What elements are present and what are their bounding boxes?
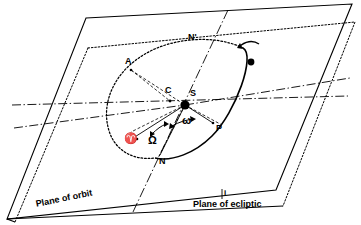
label-vernal-equinox-aries: ♈ <box>124 133 138 144</box>
label-plane-of-ecliptic: Plane of ecliptic <box>193 200 262 209</box>
aphelion-marker <box>130 69 133 72</box>
apse-line <box>131 70 222 125</box>
label-sun: S <box>190 89 196 98</box>
label-longitude-of-ascending-node: Ω <box>148 135 157 146</box>
label-ellipse-center: C <box>165 86 172 95</box>
construction-rays <box>131 70 185 158</box>
plane-of-ecliptic-outline <box>7 4 352 219</box>
label-ascending-node: N <box>159 157 166 166</box>
reference-line-horizontal <box>12 96 348 105</box>
label-argument-of-perihelion: ω <box>182 115 191 126</box>
label-inclination: i <box>224 189 226 197</box>
orbiting-body-marker <box>248 59 255 66</box>
orbital-elements-diagram: N' A C S P N ♈ Ω ω i Plane of ecliptic P… <box>0 0 361 225</box>
ellipse-center-marker <box>169 100 172 103</box>
orbital-direction-arrow <box>237 42 259 49</box>
label-perihelion: P <box>216 124 222 133</box>
diagram-canvas <box>0 0 361 225</box>
label-descending-node: N' <box>188 33 197 42</box>
label-aphelion: A <box>125 57 132 66</box>
perihelion-marker <box>212 122 215 125</box>
orbit-ellipse-near-half <box>155 48 247 159</box>
